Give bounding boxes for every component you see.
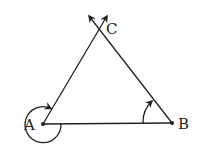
label-c: C [106, 20, 117, 38]
segment-ab [43, 123, 172, 124]
angle-arc-b [143, 101, 152, 123]
vertex-b-dot [170, 121, 174, 125]
label-a: A [23, 116, 35, 134]
vertex-a-dot [41, 122, 45, 126]
ray-a-through-c [43, 16, 107, 124]
label-b: B [178, 115, 189, 133]
triangle-diagram: A B C [0, 0, 200, 165]
ray-b-through-c [89, 16, 172, 123]
